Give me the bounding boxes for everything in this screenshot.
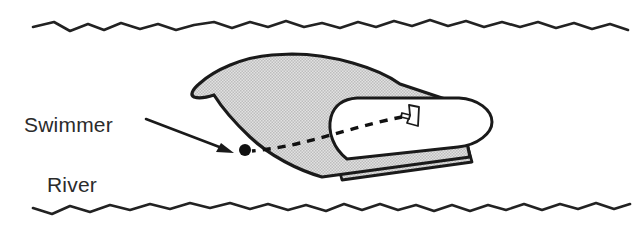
label-river: River	[47, 173, 97, 196]
river-boat-diagram: Swimmer River	[0, 0, 641, 233]
diagram-canvas: Swimmer River	[0, 0, 641, 233]
driver-arm-icon	[401, 113, 410, 119]
swimmer-dot-icon	[239, 144, 251, 156]
label-swimmer: Swimmer	[24, 113, 113, 136]
